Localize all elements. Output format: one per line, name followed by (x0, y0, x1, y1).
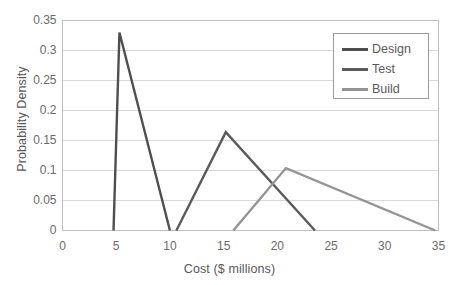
probability-density-chart: Probability Density Cost ($ millions) 00… (0, 0, 459, 285)
legend-label-design: Design (372, 42, 411, 56)
legend-swatch-design (342, 48, 368, 51)
series-line-build (233, 168, 435, 230)
legend-swatch-build (342, 88, 368, 91)
legend-item-build[interactable]: Build (342, 80, 400, 98)
legend-item-test[interactable]: Test (342, 60, 395, 78)
legend-item-design[interactable]: Design (342, 40, 411, 58)
legend-label-build: Build (372, 82, 400, 96)
legend-swatch-test (342, 68, 368, 71)
legend[interactable]: DesignTestBuild (333, 33, 429, 99)
legend-label-test: Test (372, 62, 395, 76)
